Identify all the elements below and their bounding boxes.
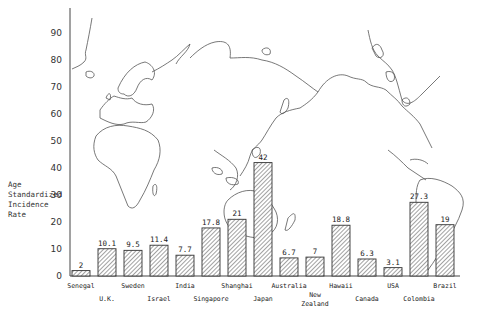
category-label-japan: Japan xyxy=(253,295,273,303)
value-label-shanghai: 21 xyxy=(232,209,241,218)
category-label-india: India xyxy=(175,282,195,290)
svg-text:Standardized: Standardized xyxy=(8,190,62,199)
category-label-israel: Israel xyxy=(147,295,171,303)
bar-colombia xyxy=(410,202,428,276)
bar-canada xyxy=(358,259,376,276)
category-label-hawaii: Hawaii xyxy=(329,282,353,290)
bar-singapore xyxy=(202,228,220,276)
value-label-hawaii: 18.8 xyxy=(332,215,351,224)
svg-text:20: 20 xyxy=(51,217,63,227)
value-label-new-zealand: 7 xyxy=(313,247,318,256)
y-axis: 0 10 20 30 40 50 60 70 80 90 Age Standar… xyxy=(8,8,70,281)
svg-text:50: 50 xyxy=(51,136,63,146)
category-label-usa: USA xyxy=(387,282,399,290)
svg-text:Incidence: Incidence xyxy=(8,200,49,209)
category-label-senegal: Senegal xyxy=(67,282,94,290)
y-tick-labels: 0 10 20 30 40 50 60 70 80 90 xyxy=(51,28,63,281)
value-label-israel: 11.4 xyxy=(150,235,169,244)
bar-hawaii xyxy=(332,225,350,276)
bar-shanghai xyxy=(228,219,246,276)
value-label-australia: 6.7 xyxy=(282,248,296,257)
value-label-japan: 42 xyxy=(258,153,267,162)
bars-group: 2Senegal10.1U.K.9.5Sweden11.4Israel7.7In… xyxy=(67,153,457,308)
svg-text:80: 80 xyxy=(51,55,63,65)
bar-japan xyxy=(254,163,272,276)
value-label-senegal: 2 xyxy=(79,261,84,270)
category-label-canada: Canada xyxy=(355,295,379,303)
svg-text:60: 60 xyxy=(51,109,63,119)
svg-text:90: 90 xyxy=(51,28,63,38)
value-label-usa: 3.1 xyxy=(386,258,400,267)
bar-u-k xyxy=(98,249,116,276)
category-label-new-zealand: New xyxy=(309,291,321,299)
category-label-shanghai: Shanghai xyxy=(221,282,252,290)
category-label-colombia: Colombia xyxy=(403,295,434,303)
value-label-colombia: 27.3 xyxy=(410,192,428,201)
bar-sweden xyxy=(124,250,142,276)
bar-india xyxy=(176,255,194,276)
bar-senegal xyxy=(72,271,90,276)
value-label-sweden: 9.5 xyxy=(126,240,140,249)
bar-australia xyxy=(280,258,298,276)
svg-text:0: 0 xyxy=(56,271,62,281)
value-label-canada: 6.3 xyxy=(360,249,374,258)
svg-text:40: 40 xyxy=(51,163,63,173)
category-label-new-zealand: Zealand xyxy=(301,300,328,308)
category-label-australia: Australia xyxy=(271,282,306,290)
category-label-u-k: U.K. xyxy=(99,295,115,303)
bar-israel xyxy=(150,245,168,276)
bar-usa xyxy=(384,268,402,276)
category-label-brazil: Brazil xyxy=(433,282,457,290)
bar-new-zealand xyxy=(306,257,324,276)
value-label-singapore: 17.8 xyxy=(202,218,221,227)
svg-text:Rate: Rate xyxy=(8,210,27,219)
bar-brazil xyxy=(436,225,454,276)
svg-text:Age: Age xyxy=(8,180,22,189)
value-label-u-k: 10.1 xyxy=(98,239,116,248)
value-label-india: 7.7 xyxy=(178,245,192,254)
incidence-rate-bar-chart: 0 10 20 30 40 50 60 70 80 90 Age Standar… xyxy=(0,0,485,312)
svg-text:70: 70 xyxy=(51,82,63,92)
category-label-singapore: Singapore xyxy=(193,295,228,303)
value-label-brazil: 19 xyxy=(440,215,449,224)
svg-text:10: 10 xyxy=(51,244,63,254)
category-label-sweden: Sweden xyxy=(121,282,145,290)
